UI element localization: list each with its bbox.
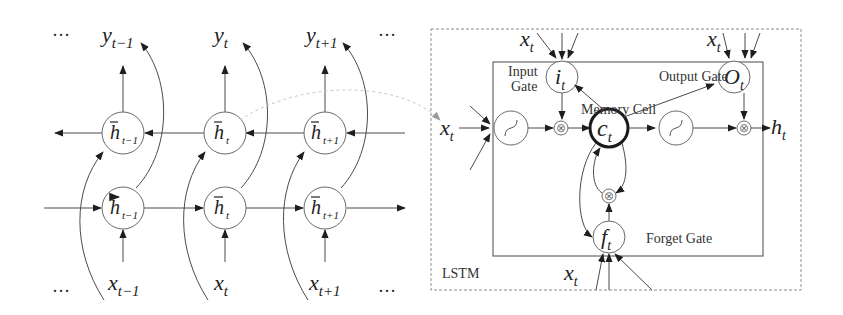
backward-state-node bbox=[102, 112, 144, 154]
input-to-backward-curve bbox=[283, 152, 308, 300]
timestep-column-t bbox=[184, 43, 268, 300]
output-gate-x-label: xt bbox=[706, 26, 722, 55]
output-label-t-plus-1: yt+1 bbox=[304, 22, 338, 51]
multiply-icon: ⊗ bbox=[739, 121, 749, 135]
ellipsis-bottom-right: … bbox=[378, 276, 396, 296]
input-to-backward-curve bbox=[184, 152, 208, 300]
input-gate-label-line1: Input bbox=[508, 64, 538, 79]
cell-to-forget-multiply-arrow bbox=[616, 143, 626, 193]
input-label-t-minus-1: xt−1 bbox=[107, 270, 140, 299]
forward-to-output-curve bbox=[341, 43, 368, 188]
forget-gate-label: Forget Gate bbox=[646, 231, 712, 246]
lstm-cell-panel: LSTM xt ⊗ it Input Gate xt ct Memory Cel… bbox=[431, 26, 801, 290]
cell-output-label: ht bbox=[771, 114, 787, 143]
input-label-t: xt bbox=[213, 270, 229, 299]
forget-gate-x-label: xt bbox=[563, 260, 579, 289]
input-gate-label-line2: Gate bbox=[511, 79, 537, 94]
input-gate-arrow-a bbox=[537, 33, 556, 58]
output-label-t-minus-1: yt−1 bbox=[100, 22, 134, 51]
forget-gate-arrow-a bbox=[596, 254, 603, 290]
lstm-diagram: … … … … bbox=[0, 0, 843, 315]
input-gate-arrow-c bbox=[568, 33, 578, 58]
forget-multiply-to-cell-arrow bbox=[594, 148, 603, 193]
timestep-column-t-minus-1 bbox=[80, 43, 164, 300]
bidirectional-rnn-panel: … … … … bbox=[44, 20, 405, 300]
forward-state-node bbox=[204, 187, 246, 229]
input-to-backward-curve bbox=[80, 152, 104, 300]
input-label-t-plus-1: xt+1 bbox=[308, 270, 341, 299]
timestep-column-t-plus-1 bbox=[283, 43, 367, 300]
ellipsis-bottom-left: … bbox=[52, 276, 70, 296]
backward-state-node bbox=[204, 112, 246, 154]
forward-to-output-curve bbox=[136, 43, 164, 188]
cell-input-label: xt bbox=[439, 115, 455, 144]
input-arrow-upper bbox=[470, 106, 490, 124]
input-arrow-lower bbox=[470, 134, 490, 170]
input-gate-x-label: xt bbox=[519, 26, 535, 55]
output-gate-arrow-c bbox=[751, 33, 760, 58]
forward-to-output-curve bbox=[241, 43, 268, 188]
multiply-icon: ⊗ bbox=[604, 189, 614, 203]
ellipsis-top-right: … bbox=[378, 20, 396, 40]
output-label-t: yt bbox=[212, 22, 229, 51]
ellipsis-top-left: … bbox=[52, 20, 70, 40]
cell-to-forget-gate-arrow bbox=[580, 143, 596, 237]
multiply-icon: ⊗ bbox=[556, 121, 566, 135]
lstm-box-label: LSTM bbox=[442, 266, 480, 281]
output-gate-label: Output Gate bbox=[659, 69, 728, 84]
forward-state-node bbox=[102, 187, 144, 229]
forget-gate-arrow-c bbox=[615, 254, 652, 290]
zoom-connector-arrow bbox=[240, 90, 440, 120]
output-gate-arrow-a bbox=[723, 33, 729, 58]
